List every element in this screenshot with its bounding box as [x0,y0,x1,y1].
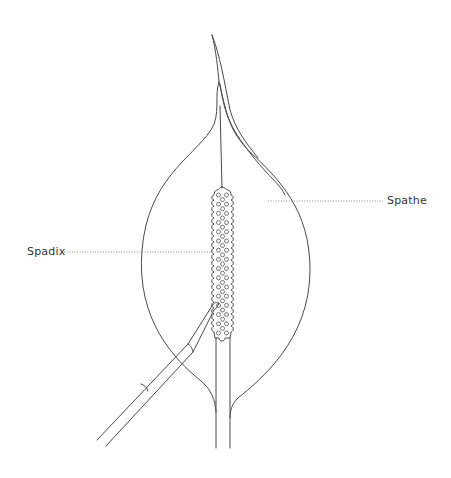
inflorescence-illustration [0,0,451,478]
diagram-canvas: Spadix Spathe [0,0,451,478]
spadix-stem [220,106,222,188]
spadix-shape [212,187,234,341]
pollination-brush [97,302,219,446]
spathe-label: Spathe [387,195,427,206]
peduncle [216,338,230,448]
spadix-label: Spadix [27,246,65,257]
spathe-shape [141,35,310,418]
spadix-flowers [217,193,229,335]
